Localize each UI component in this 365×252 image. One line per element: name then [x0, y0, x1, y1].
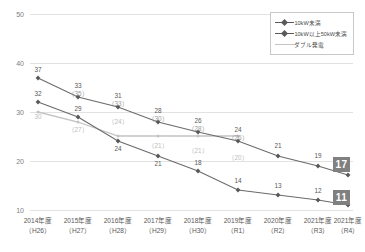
x-axis-label-8-era: （R4） — [325, 226, 365, 236]
data-sublabel-lower-4: （21） — [187, 147, 209, 154]
data-sublabel-upper-3: （30） — [147, 115, 169, 122]
data-label-double-0: 30 — [27, 113, 49, 120]
legend-marker-diamond-icon — [275, 18, 294, 27]
y-axis-tick-40: 40 — [0, 60, 24, 67]
x-axis-label-8-year: 2021年度 — [325, 216, 365, 226]
data-label-upper-0: 37 — [27, 66, 49, 73]
legend-item-double-generation[interactable]: ダブル発電 — [275, 39, 347, 50]
data-label-lower-7: 12 — [307, 187, 329, 194]
y-axis-tick-50: 50 — [0, 11, 24, 18]
data-label-lower-4: 18 — [187, 159, 209, 166]
end-badge-lower: 11 — [333, 190, 350, 205]
data-label-upper-4: 26 — [187, 117, 209, 124]
data-label-upper-2: 31 — [107, 92, 129, 99]
data-label-upper-6: 21 — [267, 142, 289, 149]
data-label-lower-6: 13 — [267, 182, 289, 189]
data-label-lower-1: 29 — [67, 105, 89, 112]
y-axis-tick-30: 30 — [0, 109, 24, 116]
data-label-upper-5: 24 — [227, 126, 249, 133]
y-axis-tick-10: 10 — [0, 207, 24, 214]
legend-label-under-10kw: 10kW未満 — [294, 19, 320, 27]
data-sublabel-lower-3: （21） — [147, 142, 169, 149]
legend-marker-line-icon — [275, 40, 294, 49]
legend-label-double-generation: ダブル発電 — [294, 41, 324, 49]
legend-item-under-10kw[interactable]: 10kW未満 — [275, 17, 347, 28]
gridline-10 — [30, 210, 353, 211]
data-label-lower-5: 14 — [227, 177, 249, 184]
data-sublabel-upper-5: （26） — [227, 134, 249, 141]
data-sublabel-upper-4: （28） — [187, 125, 209, 132]
legend-marker-diamond-icon — [275, 29, 294, 38]
data-sublabel-lower-5: （20） — [227, 154, 249, 161]
data-label-lower-0: 32 — [27, 90, 49, 97]
x-axis-label-8: 2021年度 （R4） — [325, 216, 365, 236]
data-sublabel-upper-1: （35） — [67, 90, 89, 97]
data-sublabel-upper-2: （33） — [107, 100, 129, 107]
data-sublabel-lower-1: （27） — [67, 126, 89, 133]
legend-label-10kw-to-50kw: 10kW以上50kW未満 — [294, 30, 347, 38]
chart-legend: 10kW未満 10kW以上50kW未満 ダブル発電 — [270, 12, 354, 55]
data-label-lower-3: 21 — [147, 160, 169, 167]
data-sublabel-lower-2: （24） — [107, 118, 129, 125]
data-label-upper-1: 33 — [67, 82, 89, 89]
data-label-lower-2: 24 — [107, 145, 129, 152]
data-label-upper-7: 19 — [307, 152, 329, 159]
chart-container: 50 40 30 20 10 — [0, 0, 365, 252]
data-label-upper-3: 28 — [147, 107, 169, 114]
end-badge-upper: 17 — [333, 157, 350, 172]
legend-item-10kw-to-50kw[interactable]: 10kW以上50kW未満 — [275, 28, 347, 39]
y-axis-tick-20: 20 — [0, 158, 24, 165]
